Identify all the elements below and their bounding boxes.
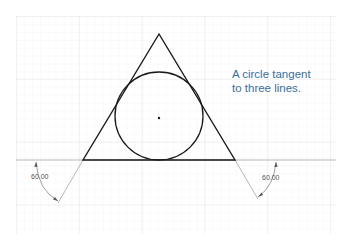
angle-label-left: 60.00 xyxy=(31,173,49,180)
sketch-canvas[interactable]: 60.00 60.00 xyxy=(0,0,351,242)
annotation-line-2: to three lines. xyxy=(232,81,311,95)
circle-center-point[interactable] xyxy=(158,117,160,119)
diagram-annotation: A circle tangent to three lines. xyxy=(232,67,311,95)
angle-label-right: 60.00 xyxy=(262,174,280,181)
annotation-line-1: A circle tangent xyxy=(232,67,311,81)
grid xyxy=(16,16,336,234)
